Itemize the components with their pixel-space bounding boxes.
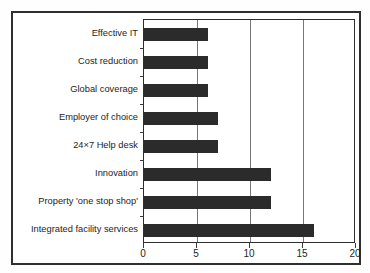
category-label: Employer of choice [0, 112, 138, 123]
chart-figure: Effective ITCost reductionGlobal coverag… [0, 0, 370, 273]
plot-area [143, 19, 355, 243]
value-tick-label: 0 [140, 248, 146, 259]
category-axis-labels: Effective ITCost reductionGlobal coverag… [0, 19, 138, 243]
bar [144, 168, 271, 181]
category-tick [140, 48, 144, 49]
bar [144, 28, 208, 41]
category-tick [140, 188, 144, 189]
category-label: Integrated facility services [0, 224, 138, 235]
gridline [250, 20, 251, 242]
category-tick [140, 216, 144, 217]
bar [144, 196, 271, 209]
value-tick-label: 15 [296, 248, 307, 259]
category-label: Global coverage [0, 84, 138, 95]
bar [144, 112, 218, 125]
category-label: 24×7 Help desk [0, 140, 138, 151]
bar [144, 140, 218, 153]
bar [144, 84, 208, 97]
category-label: Innovation [0, 168, 138, 179]
value-tick-label: 20 [349, 248, 360, 259]
bar [144, 224, 314, 237]
category-tick [140, 160, 144, 161]
bar [144, 56, 208, 69]
value-tick-label: 10 [243, 248, 254, 259]
category-tick [140, 76, 144, 77]
category-label: Property 'one stop shop' [0, 196, 138, 207]
category-tick [140, 104, 144, 105]
value-axis-labels: 05101520 [143, 248, 355, 262]
gridline [197, 20, 198, 242]
gridline [303, 20, 304, 242]
category-label: Effective IT [0, 28, 138, 39]
category-tick [140, 132, 144, 133]
category-label: Cost reduction [0, 56, 138, 67]
value-tick-label: 5 [193, 248, 199, 259]
